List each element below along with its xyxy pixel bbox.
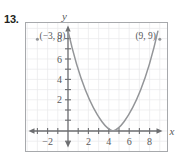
plot-svg: 8 6 4 2 −2 2 4 6 8 y x (−3, 9) (9, 9) (0, 0, 184, 161)
x-tick-label-2: 2 (86, 136, 91, 147)
x-tick-label-neg2: −2 (42, 136, 53, 147)
x-axis-label: x (169, 125, 175, 137)
point-marker-right (158, 38, 161, 41)
figure-root: 13. (0, 0, 184, 161)
x-tick-label-6: 6 (127, 136, 132, 147)
y-tick-label-6: 6 (57, 54, 62, 65)
plot-frame (26, 23, 168, 152)
y-tick-label-4: 4 (57, 74, 62, 85)
coordinate-plot: 8 6 4 2 −2 2 4 6 8 y x (−3, 9) (9, 9) (0, 0, 184, 161)
x-tick-label-4: 4 (106, 136, 111, 147)
annotation-point-right: (9, 9) (135, 31, 156, 42)
annotation-point-left: (−3, 9) (40, 31, 66, 42)
point-marker-left (36, 38, 39, 41)
y-axis-label: y (61, 10, 67, 22)
x-tick-label-8: 8 (147, 136, 152, 147)
y-tick-label-2: 2 (57, 94, 62, 105)
